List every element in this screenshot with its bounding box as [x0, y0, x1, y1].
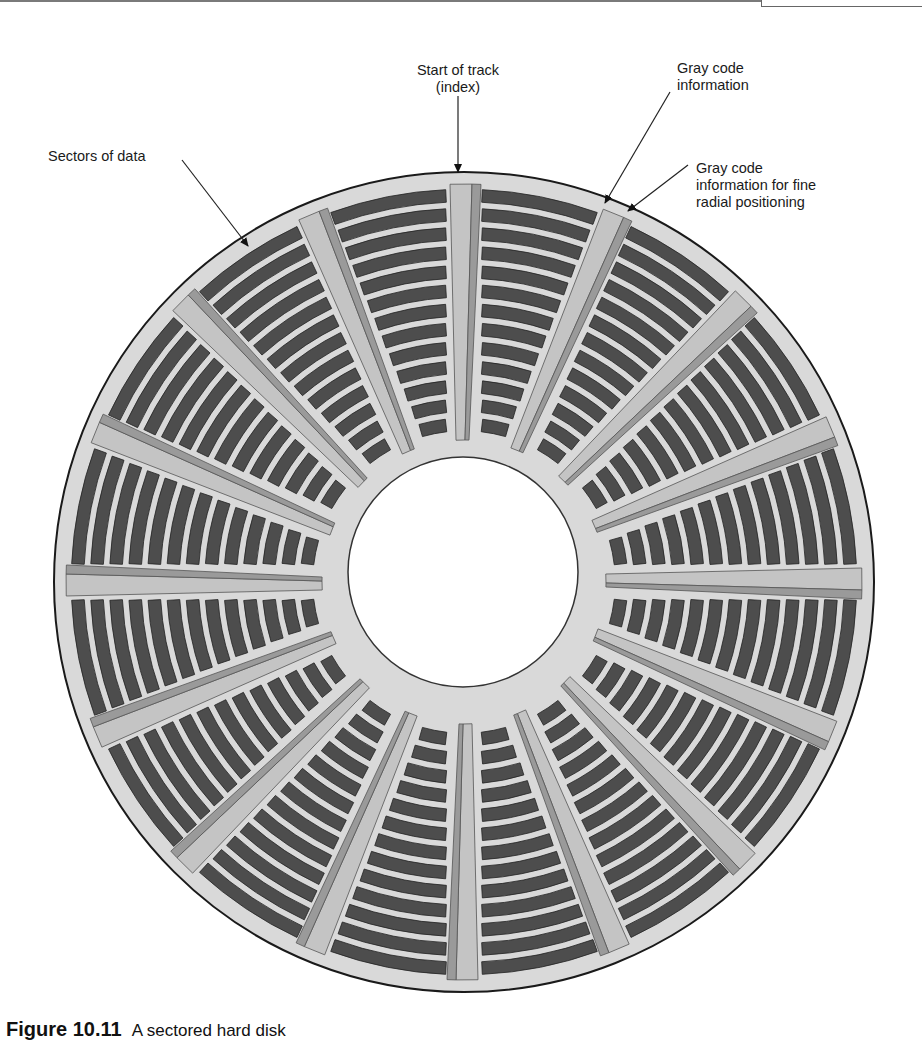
label-gray-code: Gray code information: [677, 60, 749, 94]
figure-caption: Figure 10.11A sectored hard disk: [6, 1018, 286, 1041]
spindle-hole: [348, 457, 578, 687]
label-sectors-of-data: Sectors of data: [48, 148, 146, 165]
arrow-gray-code-fine: [628, 165, 688, 211]
arrow-sectors-of-data: [182, 160, 248, 246]
figure-caption-text: A sectored hard disk: [132, 1021, 286, 1040]
figure-caption-number: Figure 10.11: [6, 1018, 122, 1040]
label-gray-code-fine: Gray code information for fine radial po…: [696, 160, 816, 211]
label-start-of-track: Start of track (index): [402, 62, 514, 96]
